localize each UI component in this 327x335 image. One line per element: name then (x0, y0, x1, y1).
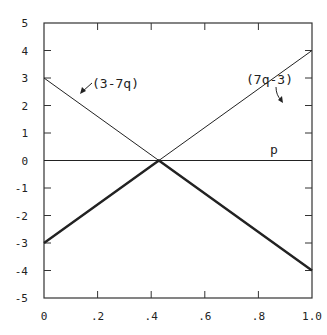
y-tick-label: -3 (15, 237, 28, 250)
y-tick-label: -5 (15, 292, 28, 305)
y-tick-label: 4 (21, 45, 28, 58)
arrowhead-3-7q-icon (80, 87, 86, 94)
y-tick-label: 5 (21, 17, 28, 30)
y-tick-label: 3 (21, 72, 28, 85)
chart: 543210-1-2-3-4-5 0.2.4.6.81.0 (3-7q) (7q… (0, 0, 327, 335)
y-tick-label: 1 (21, 127, 28, 140)
y-tick-label: -1 (15, 182, 28, 195)
x-tick-label: .4 (145, 310, 159, 323)
y-tick-label: 0 (21, 155, 28, 168)
label-p: p (270, 142, 278, 157)
x-tick-label: .6 (198, 310, 211, 323)
y-tick-label: 2 (21, 100, 28, 113)
x-tick-label: .2 (91, 310, 104, 323)
y-tick-label: -2 (15, 210, 28, 223)
x-axis-ticks: 0.2.4.6.81.0 (41, 23, 322, 323)
x-tick-label: 0 (41, 310, 48, 323)
label-7q-3: (7q-3) (246, 72, 293, 87)
series-lower-envelope (44, 161, 312, 271)
x-tick-label: .8 (252, 310, 265, 323)
label-3-7q: (3-7q) (92, 76, 139, 91)
x-tick-label: 1.0 (302, 310, 322, 323)
y-tick-label: -4 (15, 265, 29, 278)
